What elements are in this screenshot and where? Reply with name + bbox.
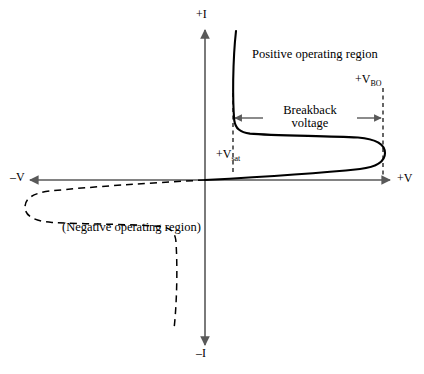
axis-label-negative-voltage: –V	[10, 171, 25, 184]
v-bo-prefix: +V	[355, 72, 370, 86]
v-sat-subscript: sat	[231, 154, 240, 163]
v-sat-prefix: +V	[216, 147, 231, 161]
negative-branch-curve	[25, 180, 205, 329]
breakback-voltage-line2: voltage	[265, 117, 355, 130]
axis-label-positive-voltage: +V	[397, 172, 412, 185]
negative-operating-region-label: (Negative operating region)	[62, 221, 201, 234]
breakback-voltage-label: Breakback voltage	[265, 104, 355, 130]
iv-characteristic-figure: +I –I +V –V Positive operating region (N…	[0, 0, 424, 374]
v-bo-label: +VBO	[355, 73, 382, 86]
v-sat-label: +Vsat	[216, 148, 240, 161]
v-bo-subscript: BO	[370, 79, 381, 88]
axis-label-positive-current: +I	[196, 8, 207, 21]
positive-operating-region-label: Positive operating region	[252, 48, 378, 61]
axis-label-negative-current: –I	[196, 347, 206, 360]
